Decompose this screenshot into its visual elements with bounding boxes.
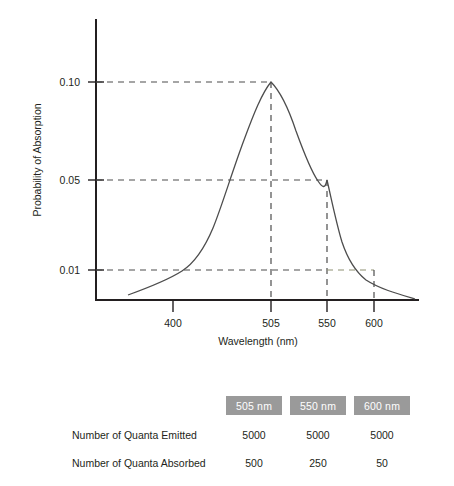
table-header-550: 550 nm (290, 396, 346, 415)
y-tick-label-0.01: 0.01 (60, 264, 81, 276)
cell-absorbed-505: 500 (226, 457, 282, 469)
x-axis-title: Wavelength (nm) (218, 335, 298, 347)
absorption-curve (128, 82, 415, 299)
spacer-cell (282, 441, 290, 457)
spacer-cell (290, 441, 346, 457)
row-label-quanta-emitted: Number of Quanta Emitted (72, 429, 226, 441)
spacer-cell (290, 415, 346, 429)
y-axis-title: Probability of Absorption (31, 103, 43, 216)
spacer-cell (282, 415, 290, 429)
cell-emitted-505: 5000 (226, 429, 282, 441)
row-gap-cell (282, 429, 290, 441)
cell-emitted-600: 5000 (354, 429, 410, 441)
table-row: Number of Quanta Absorbed 500 250 50 (72, 457, 410, 469)
x-tick-label-400: 400 (164, 317, 182, 329)
spacer-cell (346, 415, 354, 429)
row-label-quanta-absorbed: Number of Quanta Absorbed (72, 457, 226, 469)
table-header-600: 600 nm (354, 396, 410, 415)
spacer-cell (72, 441, 226, 457)
spacer-cell (354, 441, 410, 457)
table-header-505: 505 nm (226, 396, 282, 415)
cell-absorbed-550: 250 (290, 457, 346, 469)
header-gap-1 (282, 396, 290, 415)
spacer-cell (72, 415, 226, 429)
row-spacer (72, 441, 410, 457)
cell-emitted-550: 5000 (290, 429, 346, 441)
row-gap-cell (346, 429, 354, 441)
x-tick-label-600: 600 (365, 317, 383, 329)
cell-absorbed-600: 50 (354, 457, 410, 469)
row-gap-cell (282, 457, 290, 469)
spacer-cell (346, 441, 354, 457)
absorption-figure: 0.10 0.05 0.01 400 505 550 600 Wavelengt… (0, 0, 454, 368)
header-gap-2 (346, 396, 354, 415)
y-tick-label-0.05: 0.05 (60, 174, 81, 186)
table-header-row: 505 nm 550 nm 600 nm (72, 396, 410, 415)
spacer-cell (226, 441, 282, 457)
row-gap-cell (346, 457, 354, 469)
quanta-table-container: 505 nm 550 nm 600 nm Number of Quanta Em… (0, 396, 454, 469)
y-tick-label-0.10: 0.10 (60, 76, 81, 88)
header-row-spacer (72, 415, 410, 429)
table-corner-cell (72, 396, 226, 415)
spacer-cell (226, 415, 282, 429)
quanta-table: 505 nm 550 nm 600 nm Number of Quanta Em… (72, 396, 410, 469)
x-tick-label-550: 550 (318, 317, 336, 329)
x-tick-label-505: 505 (262, 317, 280, 329)
absorption-chart: 0.10 0.05 0.01 400 505 550 600 Wavelengt… (0, 0, 454, 368)
spacer-cell (354, 415, 410, 429)
table-row: Number of Quanta Emitted 5000 5000 5000 (72, 429, 410, 441)
